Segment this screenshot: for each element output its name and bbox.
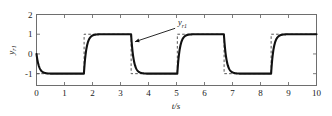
plot-frame xyxy=(37,15,317,86)
x-tick-label: 10 xyxy=(312,88,322,98)
x-tick-label: 0 xyxy=(34,88,39,98)
reference-signal-line xyxy=(37,34,317,73)
annotation-subscript: r1 xyxy=(182,23,187,29)
y-axis-title-subscript: r1 xyxy=(11,45,17,50)
x-tick-label: 2 xyxy=(90,88,95,98)
chart-plot: 012345678910 210-1 yr1 t/s yr1 xyxy=(0,0,332,116)
x-axis-title-symbol: t/s xyxy=(172,101,181,111)
annotation-label: yr1 xyxy=(177,17,187,28)
y-axis-title: yr1 xyxy=(6,45,17,55)
x-axis-title: t/s xyxy=(172,101,181,111)
x-tick-label: 9 xyxy=(286,88,291,98)
data-area xyxy=(37,34,317,73)
figure-container: 012345678910 210-1 yr1 t/s yr1 xyxy=(0,0,332,116)
x-tick-label: 7 xyxy=(230,88,235,98)
x-tick-label: 6 xyxy=(202,88,207,98)
y-tick-label: 0 xyxy=(28,49,33,59)
x-tick-label: 1 xyxy=(62,88,67,98)
y-axis-tick-labels: 210-1 xyxy=(25,10,33,79)
annotation-group: yr1 xyxy=(135,17,187,42)
y-tick-label: 1 xyxy=(28,29,33,39)
x-tick-label: 4 xyxy=(146,88,151,98)
x-axis-ticks xyxy=(37,15,317,86)
x-tick-label: 5 xyxy=(174,88,179,98)
annotation-arrowhead-icon xyxy=(135,39,140,43)
y-tick-label: -1 xyxy=(25,69,33,79)
x-tick-label: 3 xyxy=(118,88,123,98)
y-tick-label: 2 xyxy=(28,10,33,20)
x-axis-tick-labels: 012345678910 xyxy=(34,88,321,98)
output-signal-line xyxy=(37,34,317,73)
annotation-arrow-icon xyxy=(135,28,175,41)
x-tick-label: 8 xyxy=(258,88,263,98)
